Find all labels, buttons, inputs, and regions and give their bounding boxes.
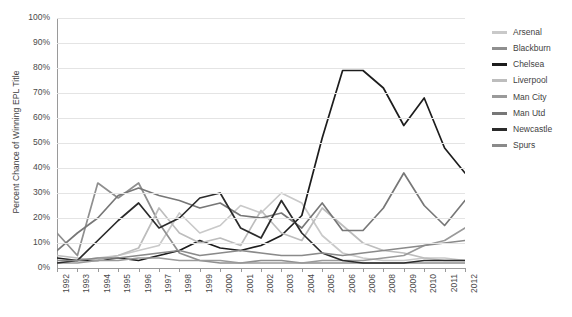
x-axis-tick-label: 2012: [469, 274, 479, 314]
x-axis-tick-mark: [200, 268, 201, 272]
x-axis-tick-label: 2003: [285, 274, 295, 314]
x-axis-tick-mark: [139, 268, 140, 272]
x-axis-tick-mark: [159, 268, 160, 272]
legend-item-label: Man Utd: [513, 109, 545, 118]
x-axis-tick-mark: [465, 268, 466, 272]
x-axis-tick-label: 1993: [81, 274, 91, 314]
legend-item-label: Arsenal: [513, 28, 542, 37]
y-axis-tick-label: 60%: [14, 113, 50, 122]
x-axis-tick-label: 1992: [61, 274, 71, 314]
legend-color-swatch: [492, 47, 507, 50]
x-axis-tick-mark: [322, 268, 323, 272]
legend-item-label: Man City: [513, 93, 547, 102]
gridline: [57, 118, 465, 119]
x-axis-tick-label: 2001: [245, 274, 255, 314]
x-axis-tick-mark: [363, 268, 364, 272]
y-axis-tick-label: 20%: [14, 213, 50, 222]
legend-color-swatch: [492, 112, 507, 115]
legend-item-label: Chelsea: [513, 60, 544, 69]
gridline: [57, 243, 465, 244]
gridline: [57, 93, 465, 94]
legend-color-swatch: [492, 144, 507, 147]
y-axis-tick-label: 100%: [14, 13, 50, 22]
x-axis-tick-mark: [179, 268, 180, 272]
x-axis-tick-mark: [261, 268, 262, 272]
y-axis-tick-label: 80%: [14, 63, 50, 72]
legend-item-label: Newcastle: [513, 125, 552, 134]
legend-color-swatch: [492, 79, 507, 82]
x-axis-tick-mark: [241, 268, 242, 272]
x-axis-tick-mark: [302, 268, 303, 272]
legend-item-label: Liverpool: [513, 76, 548, 85]
legend-item-label: Spurs: [513, 141, 535, 150]
x-axis-tick-label: 2002: [265, 274, 275, 314]
legend: ArsenalBlackburnChelseaLiverpoolMan City…: [492, 24, 572, 154]
gridline: [57, 143, 465, 144]
x-axis-tick-label: 1998: [183, 274, 193, 314]
legend-item[interactable]: Chelsea: [492, 56, 572, 72]
x-axis-tick-label: 2006: [367, 274, 377, 314]
x-axis-tick-mark: [383, 268, 384, 272]
x-axis-tick-labels: 1992199319941995199619971998199920002001…: [57, 274, 465, 316]
x-axis-tick-mark: [77, 268, 78, 272]
x-axis-tick-label: 1997: [163, 274, 173, 314]
legend-item[interactable]: Newcastle: [492, 121, 572, 137]
x-axis-tick-label: 1996: [143, 274, 153, 314]
x-axis-tick-mark: [343, 268, 344, 272]
x-axis-tick-label: 1995: [122, 274, 132, 314]
gridline: [57, 168, 465, 169]
x-axis-tick-mark: [118, 268, 119, 272]
x-axis-tick-label: 2008: [387, 274, 397, 314]
x-axis-tick-label: 2009: [408, 274, 418, 314]
y-axis-tick-label: 40%: [14, 163, 50, 172]
y-axis-tick-label: 50%: [14, 138, 50, 147]
x-axis-tick-mark: [220, 268, 221, 272]
x-axis-tick-label: 2011: [449, 274, 459, 314]
legend-color-swatch: [492, 31, 507, 34]
plot-area: [57, 18, 465, 268]
gridline: [57, 193, 465, 194]
x-axis-tick-label: 2000: [224, 274, 234, 314]
y-axis-tick-label: 10%: [14, 238, 50, 247]
x-axis-tick-mark: [404, 268, 405, 272]
series-line: [57, 71, 465, 261]
x-axis-tick-mark: [424, 268, 425, 272]
line-chart: Percent Chance of Winning EPL Title 0%10…: [0, 0, 572, 317]
legend-item[interactable]: Arsenal: [492, 24, 572, 40]
legend-item[interactable]: Liverpool: [492, 73, 572, 89]
legend-item[interactable]: Man City: [492, 89, 572, 105]
gridline: [57, 218, 465, 219]
x-axis-tick-label: 1999: [204, 274, 214, 314]
y-axis-tick-label: 70%: [14, 88, 50, 97]
x-axis-tick-label: 2006: [347, 274, 357, 314]
gridline: [57, 18, 465, 19]
legend-color-swatch: [492, 63, 507, 66]
legend-item[interactable]: Spurs: [492, 137, 572, 153]
x-axis-tick-label: 1994: [102, 274, 112, 314]
y-axis-tick-label: 90%: [14, 38, 50, 47]
legend-color-swatch: [492, 95, 507, 98]
x-axis-tick-label: 2004: [306, 274, 316, 314]
x-axis-tick-mark: [281, 268, 282, 272]
y-axis-tick-label: 30%: [14, 188, 50, 197]
legend-item-label: Blackburn: [513, 44, 551, 53]
legend-item[interactable]: Man Utd: [492, 105, 572, 121]
y-axis-tick-labels: 0%10%20%30%40%50%60%70%80%90%100%: [14, 18, 50, 268]
gridline: [57, 43, 465, 44]
y-axis-tick-label: 0%: [14, 263, 50, 272]
legend-item[interactable]: Blackburn: [492, 40, 572, 56]
x-axis-ticks: [57, 268, 465, 273]
x-axis-tick-mark: [57, 268, 58, 272]
legend-color-swatch: [492, 128, 507, 131]
x-axis-tick-label: 2005: [326, 274, 336, 314]
gridline: [57, 68, 465, 69]
x-axis-tick-label: 2010: [428, 274, 438, 314]
x-axis-tick-mark: [445, 268, 446, 272]
x-axis-tick-mark: [98, 268, 99, 272]
